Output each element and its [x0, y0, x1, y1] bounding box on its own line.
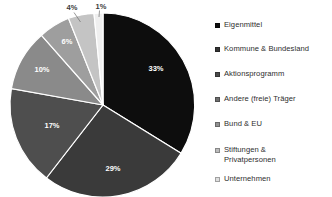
leader-line-unternehmen [99, 11, 100, 18]
legend-swatch-icon [215, 148, 220, 153]
pie-label-andere-freie-traeger: 10% [34, 65, 49, 74]
pie-chart-figure: 33% 29% 17% 10% 6% 4% 1% Eigenmittel Kom… [0, 0, 332, 197]
legend-item-andere-freie-traeger[interactable]: Andere (freie) Träger [215, 94, 296, 104]
legend-swatch-icon [215, 97, 220, 102]
pie-label-kommune-bundesland: 29% [105, 164, 120, 173]
chart-legend: Eigenmittel Kommune & Bundesland Aktions… [215, 0, 332, 197]
legend-swatch-icon [215, 122, 220, 127]
legend-item-label: Stiftungen & Privatpersonen [224, 145, 276, 164]
legend-item-label: Bund & EU [224, 119, 262, 129]
pie-label-aktionsprogramm: 17% [44, 121, 59, 130]
pie-chart-plot-area: 33% 29% 17% 10% 6% 4% 1% [0, 0, 208, 197]
legend-item-label: Eigenmittel [224, 20, 262, 30]
pie-chart-svg: 33% 29% 17% 10% 6% 4% 1% [0, 0, 208, 197]
legend-item-eigenmittel[interactable]: Eigenmittel [215, 20, 262, 30]
legend-swatch-icon [215, 72, 220, 77]
legend-swatch-icon [215, 177, 220, 182]
legend-item-label: Unternehmen [224, 174, 271, 184]
legend-item-kommune-bundesland[interactable]: Kommune & Bundesland [215, 44, 309, 54]
legend-item-unternehmen[interactable]: Unternehmen [215, 174, 271, 184]
legend-item-aktionsprogramm[interactable]: Aktionsprogramm [215, 69, 284, 79]
legend-swatch-icon [215, 47, 220, 52]
legend-item-stiftungen-privatpersonen[interactable]: Stiftungen & Privatpersonen [215, 145, 276, 164]
pie-label-bund-eu: 6% [62, 37, 73, 46]
legend-item-bund-eu[interactable]: Bund & EU [215, 119, 262, 129]
legend-item-label: Aktionsprogramm [224, 69, 284, 79]
pie-label-unternehmen: 1% [96, 2, 107, 11]
pie-label-stiftungen-privatpersonen: 4% [67, 3, 78, 12]
legend-swatch-icon [215, 23, 220, 28]
pie-slices [10, 13, 195, 197]
legend-item-label: Kommune & Bundesland [224, 44, 309, 54]
legend-item-label: Andere (freie) Träger [224, 94, 296, 104]
pie-label-eigenmittel: 33% [148, 64, 163, 73]
